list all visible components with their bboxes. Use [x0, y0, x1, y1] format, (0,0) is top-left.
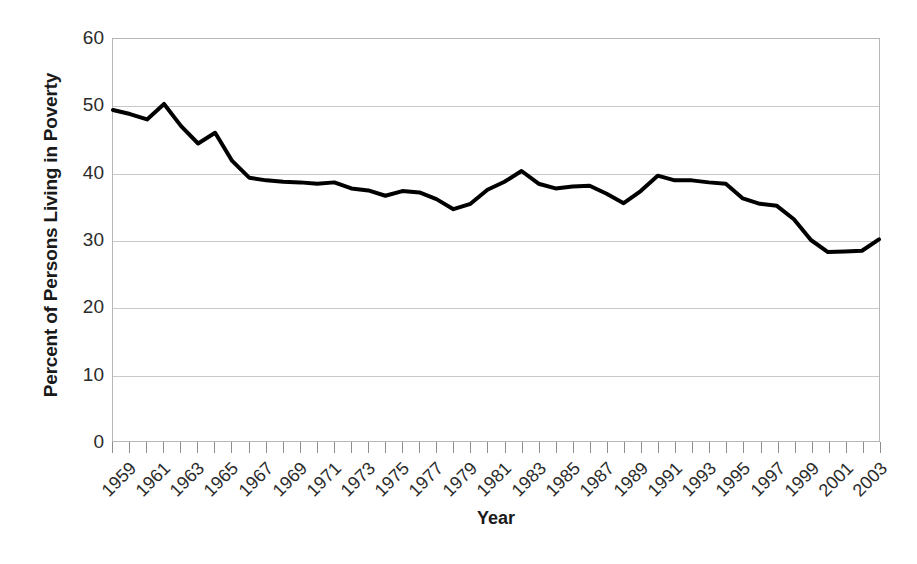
x-tick-mark [436, 442, 437, 453]
x-tick-mark [300, 442, 301, 453]
y-tick-label: 0 [56, 431, 104, 453]
x-tick-mark [778, 442, 779, 453]
y-tick-label: 20 [56, 296, 104, 318]
x-tick-mark [487, 442, 488, 453]
x-tick-mark [249, 442, 250, 453]
y-tick-label: 50 [56, 94, 104, 116]
x-tick-mark [317, 442, 318, 453]
x-tick-label: 1997 [746, 458, 789, 501]
x-tick-label: 1993 [678, 458, 721, 501]
x-tick-label: 1967 [234, 458, 277, 501]
x-tick-label: 1983 [507, 458, 550, 501]
x-tick-mark [795, 442, 796, 453]
x-tick-label: 1975 [371, 458, 414, 501]
x-tick-mark [743, 442, 744, 453]
x-tick-mark [266, 442, 267, 453]
x-tick-mark [385, 442, 386, 453]
x-tick-mark [197, 442, 198, 453]
x-tick-mark [675, 442, 676, 453]
x-tick-mark [163, 442, 164, 453]
y-tick-label: 30 [56, 229, 104, 251]
x-tick-mark [419, 442, 420, 453]
x-tick-mark [863, 442, 864, 453]
x-tick-mark [180, 442, 181, 453]
x-tick-mark [453, 442, 454, 453]
y-axis-tick-labels: 0102030405060 [50, 0, 104, 564]
x-tick-label: 1961 [132, 458, 175, 501]
y-tick-label: 10 [56, 364, 104, 386]
x-tick-label: 1959 [98, 458, 141, 501]
x-tick-label: 1987 [576, 458, 619, 501]
x-tick-mark [846, 442, 847, 453]
x-tick-mark [658, 442, 659, 453]
x-tick-mark [146, 442, 147, 453]
x-tick-mark [368, 442, 369, 453]
y-tick-label: 40 [56, 162, 104, 184]
x-tick-mark [812, 442, 813, 453]
x-tick-label: 1999 [780, 458, 823, 501]
x-tick-mark [607, 442, 608, 453]
x-tick-mark [283, 442, 284, 453]
x-tick-mark [880, 442, 881, 453]
x-tick-label: 1989 [610, 458, 653, 501]
x-tick-mark [709, 442, 710, 453]
x-tick-label: 1977 [405, 458, 448, 501]
x-tick-label: 1991 [644, 458, 687, 501]
x-tick-mark [112, 442, 113, 453]
x-axis-title: Year [112, 508, 880, 529]
x-tick-mark [761, 442, 762, 453]
x-axis-tick-marks [112, 442, 880, 454]
x-tick-mark [590, 442, 591, 453]
plot-area [112, 38, 880, 442]
x-tick-mark [573, 442, 574, 453]
x-tick-mark [351, 442, 352, 453]
x-tick-label: 1981 [473, 458, 516, 501]
x-tick-mark [726, 442, 727, 453]
y-tick-label: 60 [56, 27, 104, 49]
x-tick-mark [624, 442, 625, 453]
x-tick-label: 1973 [337, 458, 380, 501]
x-tick-label: 1963 [166, 458, 209, 501]
x-tick-mark [556, 442, 557, 453]
x-tick-mark [692, 442, 693, 453]
x-tick-label: 1965 [200, 458, 243, 501]
x-tick-mark [214, 442, 215, 453]
x-tick-label: 2003 [849, 458, 892, 501]
series-line [113, 39, 879, 441]
x-tick-mark [402, 442, 403, 453]
poverty-line-chart: Percent of Persons Living in Poverty 010… [0, 0, 917, 564]
x-tick-mark [539, 442, 540, 453]
x-tick-label: 1969 [268, 458, 311, 501]
x-tick-mark [829, 442, 830, 453]
x-tick-mark [129, 442, 130, 453]
x-tick-mark [334, 442, 335, 453]
x-tick-mark [505, 442, 506, 453]
x-tick-label: 1985 [541, 458, 584, 501]
x-tick-label: 1971 [302, 458, 345, 501]
x-tick-mark [231, 442, 232, 453]
x-tick-label: 1995 [712, 458, 755, 501]
x-tick-label: 2001 [814, 458, 857, 501]
x-tick-mark [522, 442, 523, 453]
x-tick-label: 1979 [439, 458, 482, 501]
x-tick-mark [641, 442, 642, 453]
x-tick-mark [470, 442, 471, 453]
